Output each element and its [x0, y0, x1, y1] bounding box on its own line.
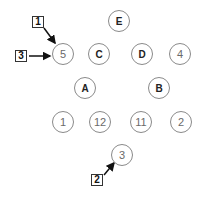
node-11: 11	[130, 111, 152, 133]
arrow-callout-2	[104, 163, 114, 175]
node-5: 5	[52, 43, 74, 65]
node-D: D	[131, 43, 153, 65]
node-A: A	[74, 77, 96, 99]
node-12: 12	[89, 111, 111, 133]
node-C: C	[88, 43, 110, 65]
callout-label-2: 2	[91, 174, 103, 186]
callout-label-1: 1	[32, 16, 44, 28]
node-4: 4	[169, 43, 191, 65]
callout-label-3: 3	[15, 50, 27, 62]
arrow-callout-1	[44, 28, 55, 43]
node-2: 2	[170, 111, 192, 133]
node-3: 3	[111, 144, 133, 166]
arrows-layer	[0, 0, 206, 199]
node-1: 1	[52, 111, 74, 133]
node-E: E	[108, 10, 130, 32]
circle-diagram: E 5 C D 4 A B 1 12 11 2 3 1 3 2	[0, 0, 206, 199]
node-B: B	[148, 77, 170, 99]
